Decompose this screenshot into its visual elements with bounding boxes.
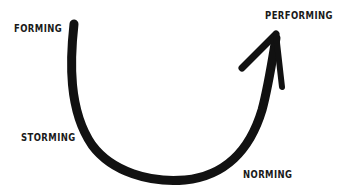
label-norming: NORMING [243, 169, 292, 181]
arrowhead-right-barb [276, 34, 282, 87]
tuckman-diagram: FORMING STORMING NORMING PERFORMING [0, 0, 345, 193]
label-forming: FORMING [14, 23, 62, 35]
label-performing: PERFORMING [265, 10, 333, 22]
curve-stroke [72, 24, 276, 180]
label-storming: STORMING [21, 132, 76, 144]
